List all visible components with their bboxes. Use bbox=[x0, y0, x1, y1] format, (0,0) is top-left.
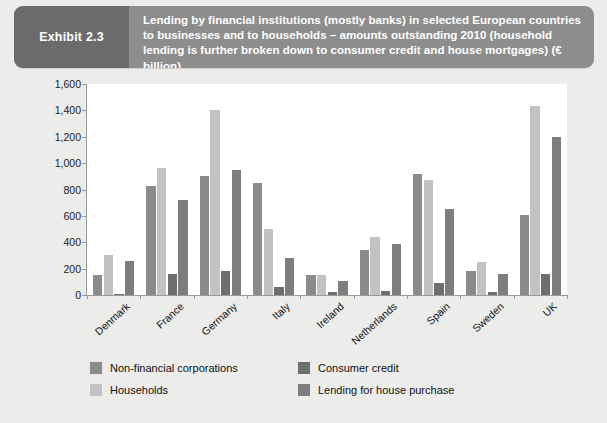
bar bbox=[200, 176, 210, 295]
x-axis-label: France bbox=[153, 300, 185, 331]
x-tick-mark bbox=[87, 295, 88, 299]
bar bbox=[434, 283, 444, 295]
y-tick-label: 800 bbox=[35, 184, 81, 196]
chart-legend: Non-financial corporationsHouseholdsCons… bbox=[90, 362, 560, 406]
x-tick-mark bbox=[140, 295, 141, 299]
bar bbox=[338, 281, 348, 296]
legend-label: Consumer credit bbox=[318, 362, 399, 374]
legend-item: Lending for house purchase bbox=[298, 384, 454, 396]
legend-swatch bbox=[298, 362, 310, 374]
x-tick-mark bbox=[247, 295, 248, 299]
exhibit-banner: Exhibit 2.3 Lending by financial institu… bbox=[14, 6, 594, 68]
bar-group bbox=[194, 84, 247, 295]
bar bbox=[541, 274, 551, 295]
legend-item: Households bbox=[90, 384, 168, 396]
bar bbox=[157, 168, 167, 295]
plot-box: 02004006008001,0001,2001,4001,600 bbox=[86, 84, 567, 296]
exhibit-title: Lending by financial institutions (mostl… bbox=[129, 6, 594, 68]
legend-swatch bbox=[298, 384, 310, 396]
bar bbox=[466, 271, 476, 295]
x-axis-label: Ireland bbox=[314, 300, 346, 330]
x-tick-mark bbox=[407, 295, 408, 299]
chart-plot-area: 02004006008001,0001,2001,4001,600 Denmar… bbox=[14, 72, 594, 412]
y-tick-label: 0 bbox=[35, 289, 81, 301]
bar bbox=[232, 170, 242, 295]
bar bbox=[317, 275, 327, 295]
bar-group bbox=[354, 84, 407, 295]
y-tick-label: 1,400 bbox=[35, 104, 81, 116]
bar bbox=[370, 237, 380, 295]
y-tick-label: 1,200 bbox=[35, 131, 81, 143]
exhibit-tag-label: Exhibit 2.3 bbox=[39, 30, 104, 44]
y-tick-label: 1,000 bbox=[35, 157, 81, 169]
bar bbox=[306, 275, 316, 295]
y-tick-label: 600 bbox=[35, 210, 81, 222]
x-axis-label: Netherlands bbox=[349, 300, 399, 347]
x-tick-mark bbox=[354, 295, 355, 299]
bar bbox=[125, 261, 135, 295]
bar bbox=[381, 291, 391, 295]
bar-group bbox=[407, 84, 460, 295]
bar bbox=[360, 250, 370, 295]
bar-group bbox=[300, 84, 353, 295]
bar bbox=[285, 258, 295, 295]
bar bbox=[93, 275, 103, 295]
bar bbox=[530, 106, 540, 295]
y-tick-label: 400 bbox=[35, 236, 81, 248]
x-tick-mark bbox=[567, 295, 568, 299]
exhibit-tag: Exhibit 2.3 bbox=[14, 6, 129, 68]
bar bbox=[552, 137, 562, 295]
bar bbox=[168, 274, 178, 295]
bar bbox=[520, 215, 530, 295]
bar bbox=[264, 229, 274, 295]
bar-group bbox=[460, 84, 513, 295]
exhibit-page: Exhibit 2.3 Lending by financial institu… bbox=[0, 0, 607, 423]
legend-swatch bbox=[90, 384, 102, 396]
bar bbox=[477, 262, 487, 295]
bar bbox=[253, 183, 263, 295]
x-tick-mark bbox=[460, 295, 461, 299]
x-tick-mark bbox=[514, 295, 515, 299]
x-tick-mark bbox=[300, 295, 301, 299]
chart-panel: 02004006008001,0001,2001,4001,600 Denmar… bbox=[14, 72, 594, 412]
legend-label: Lending for house purchase bbox=[318, 384, 454, 396]
x-axis-label: Sweden bbox=[470, 300, 506, 334]
legend-label: Households bbox=[110, 384, 168, 396]
bar-group bbox=[87, 84, 140, 295]
bar bbox=[488, 292, 498, 295]
bar-group bbox=[247, 84, 300, 295]
x-axis-label: UK bbox=[540, 300, 559, 319]
legend-label: Non-financial corporations bbox=[110, 362, 238, 374]
bar bbox=[445, 209, 455, 295]
legend-item: Consumer credit bbox=[298, 362, 399, 374]
bar bbox=[104, 255, 114, 295]
bar bbox=[274, 287, 284, 295]
legend-item: Non-financial corporations bbox=[90, 362, 238, 374]
bar bbox=[210, 110, 220, 295]
x-axis-label: Denmark bbox=[93, 300, 133, 337]
bar bbox=[392, 244, 402, 295]
bar bbox=[424, 180, 434, 295]
y-tick-label: 1,600 bbox=[35, 78, 81, 90]
bar bbox=[146, 186, 156, 295]
bar bbox=[114, 294, 124, 295]
bar bbox=[178, 200, 188, 295]
x-axis-label: Italy bbox=[270, 300, 292, 322]
bar bbox=[498, 274, 508, 295]
x-tick-mark bbox=[194, 295, 195, 299]
x-axis-label: Spain bbox=[424, 300, 452, 327]
y-tick-label: 200 bbox=[35, 263, 81, 275]
legend-swatch bbox=[90, 362, 102, 374]
bar-group bbox=[514, 84, 567, 295]
bar-groups bbox=[87, 84, 567, 295]
x-axis-label: Germany bbox=[199, 300, 239, 338]
bar bbox=[221, 271, 231, 295]
bar-group bbox=[140, 84, 193, 295]
bar bbox=[328, 292, 338, 295]
bar bbox=[413, 174, 423, 295]
x-axis-labels: DenmarkFranceGermanyItalyIrelandNetherla… bbox=[86, 300, 567, 356]
